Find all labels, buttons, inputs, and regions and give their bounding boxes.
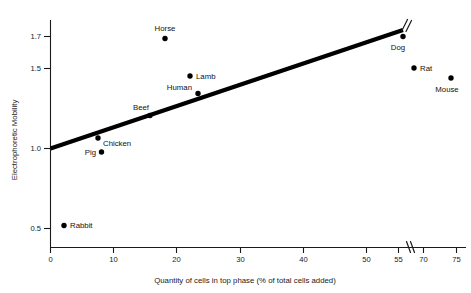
x-tick-label-10: 10	[109, 255, 117, 264]
y-tick-label-1-0: 1.0	[30, 144, 41, 153]
data-point-mouse[interactable]: Mouse	[435, 75, 458, 94]
point-label-lamb: Lamb	[196, 72, 216, 81]
trend-line-break-icon	[402, 20, 412, 32]
point-label-human: Human	[167, 83, 192, 92]
x-axis-title: Quantity of cells in top phase (% of tot…	[154, 276, 336, 285]
regression-trend-line	[51, 30, 404, 149]
x-tick-label-75: 75	[452, 255, 460, 264]
x-tick-label-40: 40	[299, 255, 307, 264]
x-tick-label-20: 20	[172, 255, 180, 264]
x-axis-ticks: 0 10 20 30 40 50 55 70 75	[48, 248, 460, 265]
data-point-rabbit[interactable]: Rabbit	[61, 221, 93, 230]
point-label-chicken: Chicken	[103, 139, 131, 148]
data-point-chicken[interactable]: Chicken	[95, 135, 131, 147]
point-marker[interactable]	[99, 149, 104, 154]
x-tick-label-70: 70	[419, 255, 427, 264]
point-marker[interactable]	[195, 91, 200, 96]
point-label-mouse: Mouse	[435, 85, 458, 94]
y-tick-label-1-7: 1.7	[30, 32, 41, 41]
point-marker[interactable]	[448, 75, 453, 80]
y-tick-label-1-5: 1.5	[30, 64, 41, 73]
point-label-dog: Dog	[391, 43, 405, 52]
point-marker[interactable]	[147, 113, 152, 118]
point-label-pig: Pig	[85, 148, 96, 157]
x-tick-label-30: 30	[236, 255, 244, 264]
data-point-dog[interactable]: Dog	[391, 34, 406, 52]
point-marker[interactable]	[187, 73, 192, 78]
x-tick-label-50: 50	[362, 255, 370, 264]
data-point-pig[interactable]: Pig	[85, 148, 104, 157]
data-points-group: Rabbit Pig Chicken Beef Horse Lamb	[61, 24, 458, 230]
point-marker[interactable]	[95, 135, 100, 140]
point-label-beef: Beef	[133, 103, 150, 112]
point-marker[interactable]	[162, 36, 167, 41]
point-label-horse: Horse	[155, 24, 176, 33]
y-axis-title: Electrophoretic Mobility	[10, 100, 19, 181]
x-tick-label-0: 0	[48, 255, 52, 264]
data-point-rat[interactable]: Rat	[411, 64, 433, 73]
data-point-horse[interactable]: Horse	[155, 24, 176, 41]
y-axis-ticks: 0.5 1.0 1.5 1.7	[30, 32, 50, 233]
point-label-rabbit: Rabbit	[70, 221, 93, 230]
scatter-chart-figure: 0.5 1.0 1.5 1.7 0 10 20 30 40 50 55 70 7…	[0, 0, 471, 293]
axes-group	[50, 20, 466, 248]
y-tick-label-0-5: 0.5	[30, 224, 41, 233]
data-point-lamb[interactable]: Lamb	[187, 72, 216, 81]
plot-canvas: 0.5 1.0 1.5 1.7 0 10 20 30 40 50 55 70 7…	[0, 0, 471, 293]
x-tick-label-55: 55	[394, 255, 402, 264]
point-marker[interactable]	[411, 65, 416, 70]
point-label-rat: Rat	[420, 64, 433, 73]
point-marker[interactable]	[400, 34, 405, 39]
point-marker[interactable]	[61, 223, 66, 228]
data-point-human[interactable]: Human	[167, 83, 201, 96]
